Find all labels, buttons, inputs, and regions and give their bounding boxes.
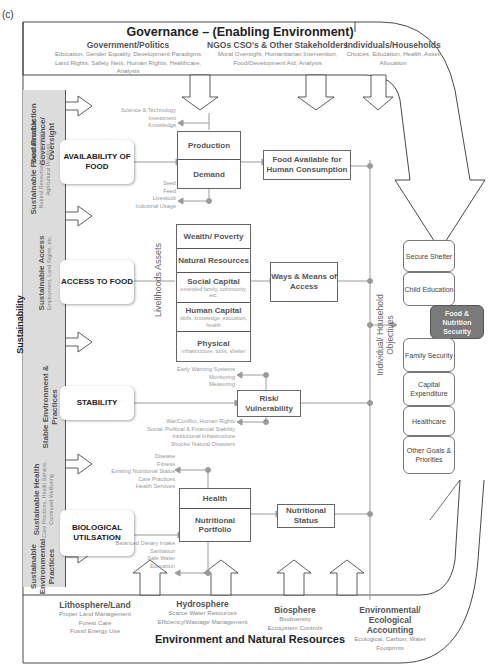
governance-col-ngos: NGOs CSO's & Other Stakeholders Moral Ov… xyxy=(205,40,350,67)
stability-notes-top: Early Warning Systems Monitoring Measuri… xyxy=(150,366,235,389)
ways-means-box: Ways & Means of Access xyxy=(270,262,338,302)
strip-section-access: Sustainable Access Employment, Land Righ… xyxy=(37,228,53,318)
utilisation-notes-top: Disease Fitness Existing Nutritional Sta… xyxy=(90,453,175,491)
health-portfolio-box: Health Nutritional Portfolio xyxy=(179,488,251,542)
stability-notes-bottom: War/Conflict, Human Rights Social, Polit… xyxy=(120,418,235,448)
sustainability-label: Sustainability xyxy=(16,285,25,365)
availability-notes-top: Science & Technology Investment Knowledg… xyxy=(110,107,176,130)
objective-food-nutrition-security: Food & Nutrition Security xyxy=(430,305,484,339)
governance-heading: Government/Politics xyxy=(38,40,218,50)
governance-col-individuals: Individuals/Households Choices, Educatio… xyxy=(338,40,448,67)
strip-section-food-production: Sustainable Food Production Natural Reso… xyxy=(29,125,52,215)
objective-healthcare: Healthcare xyxy=(403,406,455,436)
environment-col-lithosphere: Lithosphere/Land Proper Land Management … xyxy=(40,600,150,636)
production-demand-box: Production Demand xyxy=(177,131,241,189)
utilisation-notes-bottom: Balanced Dietary Intake Sanitation Safe … xyxy=(90,540,175,570)
production-label: Production xyxy=(188,141,230,150)
pillar-stability: STABILITY xyxy=(60,386,134,420)
pillar-access: ACCESS TO FOOD xyxy=(60,260,134,304)
environment-title: Environment and Natural Resources xyxy=(135,633,365,645)
availability-notes-bottom: Seed Feed Livestock Industrial Usage xyxy=(110,180,176,210)
strip-section-health: Sustainable Health Care Practices, Healt… xyxy=(32,455,55,545)
nutritional-portfolio-label: Nutritional Portfolio xyxy=(180,516,250,534)
health-label: Health xyxy=(203,494,227,503)
governance-text: Education, Gender Equality, Development … xyxy=(38,50,218,76)
demand-label: Demand xyxy=(193,170,225,179)
livelihoods-assets-label: Livelihoods Assets xyxy=(153,240,163,320)
environment-col-hydrosphere: Hydrosphere Scarce Water Resources Effic… xyxy=(145,599,260,626)
objective-secure-shelter: Secure Shelter xyxy=(403,240,455,272)
livelihood-assets-stack: Wealth/ Poverty Natural Resources Social… xyxy=(176,224,251,362)
nutritional-status-box: Nutritional Status xyxy=(277,504,335,528)
governance-text: Moral Oversight, Humanitarian Interventi… xyxy=(205,50,350,67)
governance-text: Choices, Education, Health, Asset Alloca… xyxy=(338,50,448,67)
governance-col-government: Government/Politics Education, Gender Eq… xyxy=(38,40,218,76)
environment-col-biosphere: Biosphere Biodiversity Ecosystem Control… xyxy=(255,605,335,632)
objective-capital-expenditure: Capital Expenditure xyxy=(403,372,455,406)
pillar-availability: AVAILABILITY OF FOOD xyxy=(60,140,134,184)
food-available-box: Food Available for Human Consumption xyxy=(263,150,351,180)
objective-child-education: Child Education xyxy=(403,272,455,306)
objectives-label: Individual/ Household Objectives xyxy=(375,280,395,390)
risk-vulnerability-box: Risk/ Vulnerability xyxy=(237,390,301,417)
strip-section-stable-environment: Stable Environment & Practices xyxy=(41,362,59,452)
strip-section-environmental: Sustainable Environmental Practices xyxy=(29,537,56,597)
governance-heading: Individuals/Households xyxy=(338,40,448,50)
objective-other-goals: Other Goals & Priorities xyxy=(403,436,455,474)
governance-heading: NGOs CSO's & Other Stakeholders xyxy=(205,40,350,50)
objective-family-security: Family Security xyxy=(403,338,455,372)
environment-col-accounting: Environmental/ Ecological Accounting Eco… xyxy=(345,605,435,652)
governance-title: Governance – (Enabling Environment) xyxy=(120,25,360,39)
